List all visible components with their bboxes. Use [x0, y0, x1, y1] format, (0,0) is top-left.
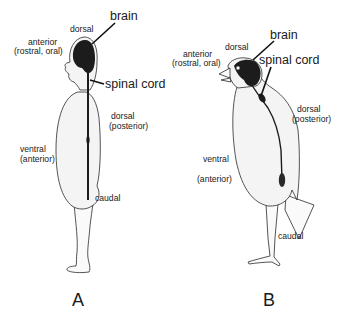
bird-beak — [219, 68, 231, 82]
anatomy-diagram: brain dorsal anterior (rostral, oral) sp… — [0, 0, 338, 311]
human-cord-enlargement — [86, 136, 89, 144]
bird-caudal-label: caudal — [278, 231, 303, 241]
human-anterior-sub-label: (rostral, oral) — [14, 46, 63, 56]
panel-a-human: brain dorsal anterior (rostral, oral) sp… — [14, 9, 165, 310]
bird-brain-label: brain — [270, 28, 298, 42]
bird-dorsal-back-sub-label: (posterior) — [292, 114, 331, 124]
bird-anterior-sub-label: (rostral, oral) — [172, 58, 221, 68]
human-ventral-label: ventral — [20, 144, 46, 154]
human-brain-label: brain — [110, 9, 138, 23]
human-dorsal-back-sub-label: (posterior) — [109, 121, 148, 131]
bird-spinal-cord-label: spinal cord — [259, 53, 319, 67]
bird-ventral-sub-label: (anterior) — [197, 174, 232, 184]
human-brain-leader — [92, 23, 115, 44]
human-spinal-cord-label: spinal cord — [105, 77, 165, 91]
human-ventral-sub-label: (anterior) — [20, 154, 55, 164]
bird-dorsal-back-label: dorsal — [297, 104, 320, 114]
bird-cord-lumbar-enlargement — [279, 173, 285, 187]
bird-body — [233, 76, 300, 206]
panel-b-label: B — [263, 290, 275, 310]
bird-dorsal-top-label: dorsal — [225, 42, 248, 52]
panel-b-bird: brain dorsal anterior (rostral, oral) sp… — [172, 28, 331, 310]
human-dorsal-back-label: dorsal — [111, 111, 134, 121]
human-dorsal-top-label: dorsal — [70, 24, 93, 34]
bird-eye — [236, 66, 240, 70]
human-leg — [67, 204, 93, 273]
human-torso — [56, 92, 100, 209]
bird-ventral-label: ventral — [203, 154, 229, 164]
panel-a-label: A — [72, 290, 84, 310]
bird-leg — [248, 204, 280, 266]
human-caudal-label: caudal — [95, 193, 120, 203]
